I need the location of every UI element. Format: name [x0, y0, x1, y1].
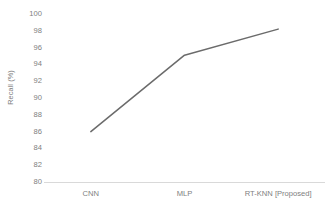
x-axis-tick-labels: CNNMLPRT-KNN [Proposed]	[44, 189, 325, 205]
y-axis-tick-label: 88	[18, 111, 42, 119]
y-axis-tick-label: 92	[18, 77, 42, 85]
y-axis-tick-label: 86	[18, 128, 42, 136]
y-axis-tick-labels: 10098969492908886848280	[18, 0, 42, 213]
y-axis-title: Recall (%)	[6, 53, 15, 123]
x-axis-tick-label: CNN	[83, 189, 99, 200]
x-axis-tick-label: RT-KNN [Proposed]	[245, 189, 312, 200]
y-axis-tick-label: 100	[18, 10, 42, 18]
y-axis-tick-label: 80	[18, 178, 42, 186]
x-axis-tick-label: MLP	[177, 189, 193, 200]
y-axis-tick-label: 82	[18, 161, 42, 169]
series-polyline	[91, 29, 278, 131]
y-axis-tick-label: 94	[18, 61, 42, 69]
recall-line-chart: Recall (%) 10098969492908886848280 CNNML…	[0, 0, 334, 213]
y-axis-tick-label: 84	[18, 145, 42, 153]
x-axis-line	[44, 182, 325, 183]
y-axis-tick-label: 90	[18, 94, 42, 102]
y-axis-tick-label: 96	[18, 44, 42, 52]
y-axis-tick-label: 98	[18, 27, 42, 35]
series-line-recall	[44, 14, 325, 182]
plot-area	[44, 14, 325, 182]
